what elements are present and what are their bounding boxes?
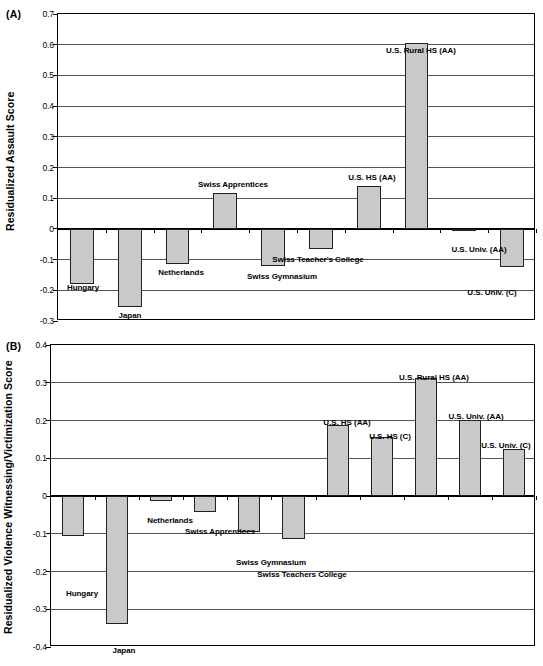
panel-a-y-tick-mark [53, 198, 58, 199]
panel-b-y-tick-label: -0.3 [33, 604, 47, 614]
panel-a-y-tick-mark [53, 136, 58, 137]
bar-swiss-apprentices [194, 496, 216, 512]
panel-a-y-axis-title: Residualized Assault Score [4, 56, 16, 266]
bar-u-s-rural-hs-aa [415, 378, 437, 496]
bar-japan [106, 496, 128, 624]
panel-b-x-tick-mark [404, 496, 405, 500]
bar-label-japan: Japan [119, 311, 142, 320]
panel-b-y-tick-label: -0.4 [33, 642, 47, 652]
panel-b-x-tick-mark [448, 496, 449, 500]
panel-b-x-tick-mark [536, 496, 537, 500]
bar-label-japan: Japan [113, 646, 136, 655]
panel-a-y-tick-mark [53, 167, 58, 168]
bar-label-u-s-univ-c: U.S. Univ. (C) [481, 441, 530, 450]
panel-b-y-tick-mark [46, 458, 51, 459]
panel-a-letter: (A) [6, 8, 21, 20]
bar-u-s-univ-aa [459, 420, 481, 496]
panel-a-y-tick-mark [53, 321, 58, 322]
panel-a-gridline [58, 44, 534, 45]
bar-label-u-s-univ-aa: U.S. Univ. (AA) [451, 245, 506, 254]
bar-label-u-s-univ-c: U.S. Univ. (C) [467, 288, 516, 297]
panel-b-y-tick-label: -0.1 [33, 529, 47, 539]
panel-a-gridline [58, 75, 534, 76]
panel-b-x-tick-mark [95, 496, 96, 500]
panel-a-y-tick-mark [53, 259, 58, 260]
panel-a-x-tick-mark [297, 229, 298, 233]
panel-a-x-tick-mark [249, 229, 250, 233]
bar-label-u-s-univ-aa: U.S. Univ. (AA) [448, 412, 503, 421]
bar-label-swiss-teacher-s-college: Swiss Teacher's College [272, 255, 363, 264]
panel-b-y-tick-label: -0.2 [33, 567, 47, 577]
panel-b-gridline [51, 382, 534, 383]
panel-b-y-tick-mark [46, 647, 51, 648]
panel-a-y-tick-mark [53, 44, 58, 45]
bar-label-u-s-hs-aa: U.S. HS (AA) [323, 418, 370, 427]
bar-swiss-teacher-s-college [309, 229, 333, 249]
bar-label-u-s-rural-hs-aa: U.S. Rural HS (AA) [386, 46, 456, 55]
bar-hungary [62, 496, 84, 536]
panel-b-y-tick-mark [46, 345, 51, 346]
panel-a-gridline [58, 106, 534, 107]
bar-label-hungary: Hungary [66, 589, 98, 598]
panel-b-x-tick-mark [183, 496, 184, 500]
panel-b-x-tick-mark [271, 496, 272, 500]
bar-label-u-s-rural-hs-aa: U.S. Rural HS (AA) [399, 373, 469, 382]
bar-label-swiss-teachers-college: Swiss Teachers College [257, 570, 346, 579]
panel-a-gridline [58, 167, 534, 168]
panel-b-y-tick-mark [46, 533, 51, 534]
bar-label-swiss-apprentices: Swiss Apprentices [198, 180, 268, 189]
panel-b-x-tick-mark [227, 496, 228, 500]
chart-panel-a: (A) Residualized Assault Score 0.70.60.5… [0, 0, 543, 334]
panel-a-y-tick-mark [53, 75, 58, 76]
panel-b-y-tick-mark [46, 609, 51, 610]
panel-b-x-tick-mark [360, 496, 361, 500]
panel-a-x-tick-mark [345, 229, 346, 233]
bar-label-u-s-hs-aa: U.S. HS (AA) [348, 173, 395, 182]
panel-b-y-tick-mark [46, 420, 51, 421]
panel-b-letter: (B) [6, 340, 21, 352]
bar-u-s-univ-c [503, 449, 525, 496]
panel-b-x-tick-mark [316, 496, 317, 500]
chart-panel-b: (B) Residualized Violence Witnessing/Vic… [0, 334, 543, 666]
bar-u-s-hs-c [371, 437, 393, 496]
bar-swiss-apprentices [213, 193, 237, 229]
bar-label-swiss-gymnasium: Swiss Gymnasium [247, 272, 317, 281]
panel-b-y-tick-mark [46, 382, 51, 383]
panel-a-x-tick-mark [440, 229, 441, 233]
panel-a-x-tick-mark [154, 229, 155, 233]
panel-a-x-tick-mark [393, 229, 394, 233]
panel-b-plot-area: 0.40.30.20.10-0.1-0.2-0.3-0.4 [50, 344, 535, 646]
bar-netherlands [166, 229, 190, 264]
bar-label-swiss-gymnasium: Swiss Gymnasium [236, 558, 306, 567]
panel-b-y-tick-mark [46, 571, 51, 572]
bar-label-u-s-hs-c: U.S. HS (C) [369, 432, 411, 441]
panel-b-x-tick-mark [492, 496, 493, 500]
panel-a-x-tick-mark [106, 229, 107, 233]
bar-swiss-teachers-college [282, 496, 304, 539]
bar-label-swiss-apprentices: Swiss Apprentices [185, 527, 255, 536]
bar-label-netherlands: Netherlands [147, 516, 193, 525]
bar-u-s-univ-aa [452, 229, 476, 231]
panel-a-x-tick-mark [201, 229, 202, 233]
panel-b-y-tick-mark [46, 496, 51, 497]
panel-b-y-axis-title: Residualized Violence Witnessing/Victimi… [2, 352, 14, 642]
panel-a-y-tick-label: -0.1 [40, 255, 54, 265]
panel-a-y-tick-mark [53, 14, 58, 15]
panel-a-y-tick-mark [53, 106, 58, 107]
panel-a-gridline [58, 136, 534, 137]
panel-a-y-tick-label: -0.2 [40, 285, 54, 295]
panel-a-gridline [58, 198, 534, 199]
bar-u-s-rural-hs-aa [405, 43, 429, 229]
panel-b-x-tick-mark [139, 496, 140, 500]
panel-a-x-tick-mark [488, 229, 489, 233]
bar-u-s-hs-aa [357, 186, 381, 229]
bar-japan [118, 229, 142, 307]
bar-label-netherlands: Netherlands [158, 268, 204, 277]
bar-netherlands [150, 496, 172, 501]
panel-a-y-tick-mark [53, 228, 58, 229]
panel-a-y-tick-mark [53, 290, 58, 291]
panel-a-x-tick-mark [536, 229, 537, 233]
bar-hungary [70, 229, 94, 284]
bar-label-hungary: Hungary [67, 283, 99, 292]
bar-u-s-hs-aa [327, 425, 349, 496]
